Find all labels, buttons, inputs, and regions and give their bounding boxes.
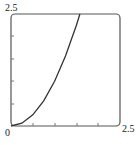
curve-line	[11, 14, 80, 126]
origin-label: 0	[5, 128, 10, 138]
plot-area	[0, 0, 136, 145]
plot-frame	[11, 14, 120, 126]
x-max-label: 2.5	[122, 124, 135, 134]
y-max-label: 2.5	[5, 3, 18, 13]
